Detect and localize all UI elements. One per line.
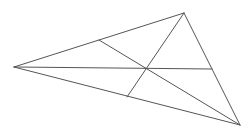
diagram-lines <box>14 13 240 125</box>
side-ca-line <box>14 67 240 125</box>
triangle-diagram <box>0 0 249 130</box>
cevian-a-to-bc-line <box>14 67 212 69</box>
cevian-b-to-ca-line <box>127 13 184 97</box>
